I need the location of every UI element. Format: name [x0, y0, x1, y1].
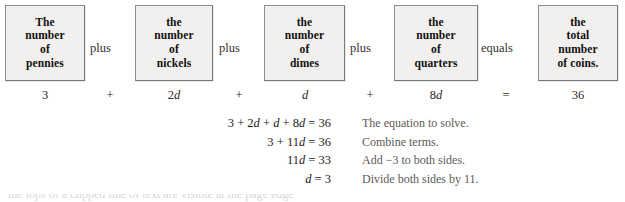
- value-pennies-value: 3: [42, 88, 48, 103]
- phrase-box-line: the: [570, 16, 586, 30]
- step-equation-lhs: 11: [287, 153, 299, 167]
- step-row: 3 + 2d + d + 8d = 36The equation to solv…: [0, 116, 625, 135]
- step-equation-rhs: = 3: [311, 172, 331, 186]
- phrase-box-pennies: Thenumberofpennies: [5, 5, 85, 81]
- phrase-box-line: quarters: [415, 57, 458, 71]
- value-quarters-value: 8d: [430, 88, 443, 103]
- step-equation: 11d = 33: [0, 153, 331, 168]
- value-nickels-value: 2d: [168, 88, 181, 103]
- phrase-box-line: number: [416, 29, 456, 43]
- step-annotation: Add −3 to both sides.: [362, 153, 465, 168]
- step-annotation: The equation to solve.: [362, 116, 469, 131]
- phrase-box-line: of coins.: [557, 57, 598, 71]
- step-equation-lhs: 3 + 2: [228, 116, 254, 130]
- value-dimes-value: d: [302, 88, 308, 103]
- step-equation-rhs: = 33: [305, 153, 331, 167]
- value-number: +: [235, 88, 242, 102]
- value-operator-plus-3: +: [366, 88, 373, 103]
- phrase-box-dimes: thenumberofdimes: [264, 5, 345, 81]
- step-equation: 3 + 2d + d + 8d = 36: [0, 116, 331, 131]
- step-equation-tail: + 8: [279, 116, 299, 130]
- value-variable: d: [436, 88, 442, 102]
- connector-plus-2: plus: [219, 41, 240, 56]
- clipped-bottom-line-text: the tops of a clipped line of text are v…: [8, 194, 294, 202]
- step-equation: 3 + 11d = 36: [0, 135, 331, 150]
- step-equation: d = 3: [0, 172, 331, 187]
- phrase-box-coins: thetotalnumberof coins.: [538, 5, 618, 81]
- phrase-box-nickels: thenumberofnickels: [135, 5, 213, 81]
- step-equation-lhs: 3 + 11: [267, 135, 299, 149]
- value-operator-plus-1: +: [106, 88, 113, 103]
- value-number: +: [106, 88, 113, 102]
- value-row: 3+2d+d+8d=36: [0, 88, 625, 108]
- step-annotation: Combine terms.: [362, 135, 439, 150]
- phrase-box-line: total: [567, 29, 590, 43]
- value-number: +: [366, 88, 373, 102]
- phrase-box-line: of: [431, 43, 441, 57]
- connector-equals-1: equals: [481, 41, 513, 56]
- phrase-box-line: The: [35, 16, 54, 30]
- phrase-box-row: Thenumberofpenniesthenumberofnickelsthen…: [0, 0, 625, 86]
- step-equation-mid: +: [260, 116, 273, 130]
- phrase-box-line: dimes: [290, 57, 319, 71]
- phrase-box-line: number: [558, 43, 598, 57]
- phrase-box-line: number: [25, 29, 65, 43]
- step-equation-rhs: = 36: [305, 116, 331, 130]
- phrase-box-line: pennies: [26, 57, 64, 71]
- value-number: 3: [42, 88, 48, 102]
- value-variable: d: [302, 88, 308, 102]
- phrase-box-line: nickels: [157, 57, 192, 71]
- step-row: 11d = 33Add −3 to both sides.: [0, 153, 625, 172]
- phrase-box-line: number: [154, 29, 194, 43]
- value-total-value: 36: [572, 88, 585, 103]
- phrase-box-line: number: [285, 29, 325, 43]
- step-row: 3 + 11d = 36Combine terms.: [0, 135, 625, 154]
- phrase-box-line: the: [428, 16, 444, 30]
- step-annotation: Divide both sides by 11.: [362, 172, 479, 187]
- phrase-box-line: of: [169, 43, 179, 57]
- value-number: 36: [572, 88, 585, 102]
- solution-steps: 3 + 2d + d + 8d = 36The equation to solv…: [0, 116, 625, 190]
- phrase-box-line: of: [300, 43, 310, 57]
- phrase-box-line: the: [166, 16, 182, 30]
- value-operator-equals: =: [502, 88, 509, 103]
- connector-plus-1: plus: [90, 41, 111, 56]
- value-variable: d: [174, 88, 180, 102]
- clipped-bottom-line: the tops of a clipped line of text are v…: [0, 194, 625, 202]
- value-number: =: [502, 88, 509, 102]
- phrase-box-quarters: thenumberofquarters: [394, 5, 478, 81]
- value-operator-plus-2: +: [235, 88, 242, 103]
- phrase-box-line: the: [297, 16, 313, 30]
- connector-plus-3: plus: [350, 41, 371, 56]
- step-row: d = 3Divide both sides by 11.: [0, 172, 625, 191]
- phrase-box-line: of: [40, 43, 50, 57]
- step-equation-rhs: = 36: [305, 135, 331, 149]
